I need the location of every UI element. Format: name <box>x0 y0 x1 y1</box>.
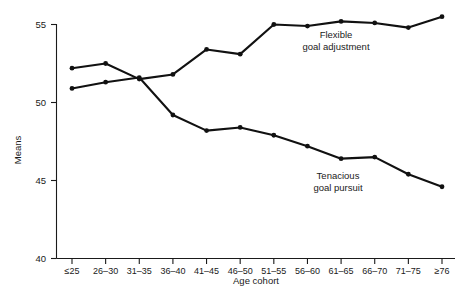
data-point-marker <box>171 113 176 118</box>
y-tick-label-45: 45 <box>35 175 46 186</box>
x-tick-label: 51–55 <box>261 266 286 276</box>
data-point-marker <box>70 86 75 91</box>
data-point-marker <box>440 14 445 19</box>
data-point-marker <box>238 52 243 57</box>
data-point-marker <box>372 21 377 26</box>
data-point-marker <box>339 19 344 24</box>
line-chart: 55 50 45 40 Means ≤2526–3031–3536–4041–4… <box>0 0 472 300</box>
data-point-marker <box>171 72 176 77</box>
x-tick-label: 31–35 <box>127 266 152 276</box>
data-point-marker <box>440 184 445 189</box>
data-point-marker <box>137 75 142 80</box>
x-tick-label: 36–40 <box>160 266 185 276</box>
annotation-line: goal pursuit <box>313 182 362 193</box>
tenacious-goal-pursuit-label: Tenaciousgoal pursuit <box>313 170 362 193</box>
y-tick-label-55: 55 <box>35 19 46 30</box>
x-tick-label: 46–50 <box>228 266 253 276</box>
y-tick-label-40: 40 <box>35 253 46 264</box>
annotation-line: goal adjustment <box>302 41 369 52</box>
annotation-line: Flexible <box>320 29 353 40</box>
data-point-marker <box>103 80 108 85</box>
data-point-marker <box>372 155 377 160</box>
y-tick-label-50: 50 <box>35 97 46 108</box>
data-point-marker <box>406 25 411 30</box>
data-point-marker <box>305 144 310 149</box>
data-point-marker <box>70 66 75 71</box>
x-tick-label: 56–60 <box>295 266 320 276</box>
x-axis-title: Age cohort <box>233 275 279 286</box>
x-tick-label: ≥76 <box>435 266 450 276</box>
annotation-line: Tenacious <box>317 170 360 181</box>
data-point-marker <box>271 22 276 27</box>
data-point-marker <box>103 61 108 66</box>
data-point-marker <box>339 156 344 161</box>
data-point-marker <box>305 24 310 29</box>
data-point-marker <box>204 47 209 52</box>
x-tick-label: 41–45 <box>194 266 219 276</box>
x-tick-label: 26–30 <box>93 266 118 276</box>
data-point-marker <box>271 133 276 138</box>
x-tick-label: 66–70 <box>362 266 387 276</box>
data-point-marker <box>406 172 411 177</box>
chart-background <box>0 0 472 300</box>
data-point-marker <box>204 128 209 133</box>
x-tick-label: ≤25 <box>65 266 80 276</box>
x-tick-label: 71–75 <box>396 266 421 276</box>
y-axis-title: Means <box>12 135 23 164</box>
data-point-marker <box>238 125 243 130</box>
x-tick-label: 61–65 <box>329 266 354 276</box>
